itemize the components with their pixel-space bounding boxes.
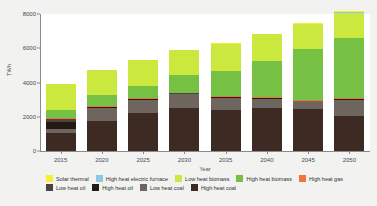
bar-segment[interactable] xyxy=(46,133,76,151)
y-axis-title: TWh xyxy=(6,64,12,76)
bar-segment[interactable] xyxy=(169,75,199,92)
legend-label: High heat coal xyxy=(201,185,236,191)
legend-swatch-icon xyxy=(175,175,182,182)
bar-segment[interactable] xyxy=(128,100,158,114)
bar-segment[interactable] xyxy=(334,13,364,39)
legend-item[interactable]: High heat gas xyxy=(299,175,343,182)
bar-segment[interactable] xyxy=(87,70,117,94)
bar-segment[interactable] xyxy=(128,60,158,86)
x-axis-title: Year xyxy=(40,166,370,172)
bar-segment[interactable] xyxy=(87,95,117,106)
legend-swatch-icon xyxy=(46,184,53,191)
x-axis-tick-mark xyxy=(349,151,350,154)
bar-segment[interactable] xyxy=(211,44,241,71)
legend-item[interactable]: Low heat coal xyxy=(140,184,184,191)
legend-label: High heat oil xyxy=(102,185,133,191)
legend-label: High heat biomass xyxy=(246,176,292,182)
x-axis-tick-label: 2025 xyxy=(136,157,149,163)
x-axis-tick-label: 2035 xyxy=(219,157,232,163)
bar-segment[interactable] xyxy=(46,122,76,129)
chart-container: TWh 02000400060008000 201520202025203020… xyxy=(0,0,377,206)
bar-segment[interactable] xyxy=(169,94,199,108)
bar-segment[interactable] xyxy=(211,71,241,97)
x-axis-line xyxy=(40,151,370,152)
bar-segment[interactable] xyxy=(252,61,282,97)
legend-label: Low heat oil xyxy=(56,185,85,191)
legend-item[interactable]: Low heat oil xyxy=(46,184,85,191)
x-axis-tick-mark xyxy=(184,151,185,154)
bar-segment[interactable] xyxy=(87,121,117,151)
x-axis-tick-label: 2015 xyxy=(54,157,67,163)
bar-segment[interactable] xyxy=(128,113,158,151)
x-axis-tick-mark xyxy=(143,151,144,154)
legend-label: Low heat biomass xyxy=(185,176,229,182)
plot-area: 02000400060008000 2015202020252030203520… xyxy=(40,14,370,152)
bar-segment[interactable] xyxy=(211,98,241,110)
legend-label: Solar thermal xyxy=(56,176,89,182)
x-axis-tick-label: 2030 xyxy=(178,157,191,163)
legend-item[interactable]: Solar thermal xyxy=(46,175,89,182)
bar-segment[interactable] xyxy=(252,34,282,61)
legend-item[interactable]: Low heat biomass xyxy=(175,175,229,182)
bar-group[interactable]: 2050 xyxy=(334,11,364,151)
legend-swatch-icon xyxy=(92,184,99,191)
legend-swatch-icon xyxy=(191,184,198,191)
bar-segment[interactable] xyxy=(169,50,199,75)
bar-segment[interactable] xyxy=(252,99,282,109)
bar-segment[interactable] xyxy=(128,86,158,99)
legend-item[interactable]: High heat oil xyxy=(92,184,133,191)
bar-series-group: 20152020202520302035204020452050 xyxy=(40,14,370,151)
x-axis-tick-mark xyxy=(226,151,227,154)
bar-segment[interactable] xyxy=(87,108,117,121)
x-axis-tick-label: 2040 xyxy=(260,157,273,163)
bar-group[interactable]: 2040 xyxy=(252,34,282,151)
bar-group[interactable]: 2020 xyxy=(87,70,117,151)
bar-segment[interactable] xyxy=(169,108,199,151)
x-axis-tick-mark xyxy=(61,151,62,154)
legend-label: Low heat coal xyxy=(150,185,184,191)
x-axis-tick-mark xyxy=(308,151,309,154)
legend-label: High heat gas xyxy=(309,176,343,182)
bar-segment[interactable] xyxy=(293,24,323,49)
bar-group[interactable]: 2025 xyxy=(128,60,158,151)
legend-label: High heat electric furnace xyxy=(106,176,168,182)
bar-group[interactable]: 2035 xyxy=(211,43,241,151)
bar-segment[interactable] xyxy=(334,100,364,116)
x-axis-tick-mark xyxy=(102,151,103,154)
x-axis-tick-label: 2045 xyxy=(301,157,314,163)
chart-legend: Solar thermalHigh heat electric furnaceL… xyxy=(46,175,346,193)
bar-segment[interactable] xyxy=(334,116,364,151)
legend-row: Solar thermalHigh heat electric furnaceL… xyxy=(46,175,346,182)
bar-segment[interactable] xyxy=(293,109,323,151)
x-axis-tick-mark xyxy=(267,151,268,154)
legend-swatch-icon xyxy=(236,175,243,182)
x-axis-tick-label: 2020 xyxy=(95,157,108,163)
bar-group[interactable]: 2030 xyxy=(169,50,199,151)
bar-group[interactable]: 2045 xyxy=(293,23,323,151)
legend-row: Low heat oilHigh heat oilLow heat coalHi… xyxy=(46,184,346,191)
legend-item[interactable]: High heat coal xyxy=(191,184,236,191)
x-axis-tick-label: 2050 xyxy=(343,157,356,163)
legend-item[interactable]: High heat biomass xyxy=(236,175,292,182)
legend-item[interactable]: High heat electric furnace xyxy=(96,175,168,182)
bar-segment[interactable] xyxy=(293,101,323,108)
bar-segment[interactable] xyxy=(252,108,282,151)
legend-swatch-icon xyxy=(96,175,103,182)
bar-segment[interactable] xyxy=(46,84,76,110)
bar-segment[interactable] xyxy=(46,110,76,118)
bar-segment[interactable] xyxy=(334,38,364,98)
bar-group[interactable]: 2015 xyxy=(46,84,76,151)
legend-swatch-icon xyxy=(46,175,53,182)
legend-swatch-icon xyxy=(140,184,147,191)
legend-swatch-icon xyxy=(299,175,306,182)
bar-segment[interactable] xyxy=(211,110,241,151)
bar-segment[interactable] xyxy=(293,49,323,100)
